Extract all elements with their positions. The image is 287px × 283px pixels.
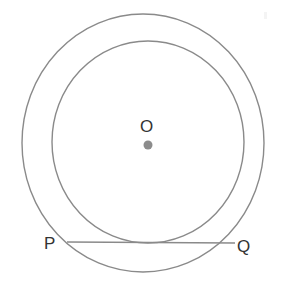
center-label-o: O <box>140 118 153 135</box>
center-point-dot <box>144 141 153 150</box>
corner-artifact <box>264 12 267 19</box>
chord-pq-line <box>67 242 235 243</box>
chord-endpoint-label-p: P <box>44 235 55 252</box>
geometry-figure: O P Q <box>0 0 287 283</box>
chord-endpoint-label-q: Q <box>237 238 250 255</box>
outer-circle <box>22 14 264 272</box>
